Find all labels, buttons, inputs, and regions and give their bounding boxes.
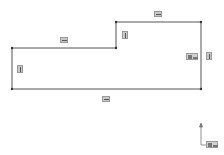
sketch-endpoints[interactable] (11, 21, 202, 90)
horizontal-relation-icon[interactable] (60, 37, 68, 43)
vertical-relation-icon[interactable] (206, 52, 212, 60)
vertical-relation-icon[interactable] (17, 65, 23, 73)
fix-relation-icon[interactable] (186, 53, 198, 60)
horizontal-relation-icon[interactable] (154, 11, 162, 17)
sketch-canvas[interactable] (0, 0, 224, 155)
sketch-profile[interactable] (12, 22, 201, 89)
horizontal-relation-icon[interactable] (102, 96, 110, 102)
vertical-relation-icon[interactable] (122, 31, 128, 39)
origin-icon (206, 141, 218, 148)
